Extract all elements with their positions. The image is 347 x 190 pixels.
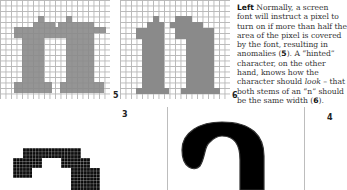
- caption-line: anomalies (: [237, 49, 281, 58]
- caption-line: ).: [319, 96, 324, 105]
- caption-emphasis: look: [305, 77, 321, 86]
- caption-line: Normally, a screen: [254, 3, 329, 12]
- caption-line: turn on if more than half the: [237, 22, 347, 31]
- caption-line: by the font, resulting in: [237, 40, 347, 49]
- caption-line: be the same width (: [237, 96, 313, 105]
- unhinted-n-glyph: [0, 0, 110, 99]
- caption-line: – that: [321, 77, 345, 86]
- caption-line: both stems of an “n” should: [237, 87, 347, 96]
- divider-right: [304, 107, 305, 190]
- hinted-n-glyph: [120, 0, 230, 99]
- caption-line: character should: [237, 77, 305, 86]
- divider-left: [167, 107, 168, 190]
- figure-number-3: 3: [122, 110, 128, 119]
- pixel-grid-hinted: [120, 0, 230, 99]
- pixel-grid-unhinted: [0, 0, 110, 99]
- caption-lead: Left: [237, 3, 254, 12]
- figure-number-5: 5: [113, 91, 119, 100]
- outline-n-glyph: [170, 110, 300, 190]
- figure-number-4: 4: [327, 113, 333, 122]
- figure-caption: Left Normally, a screen font will instru…: [237, 3, 347, 105]
- caption-line: character, on the other: [237, 59, 347, 68]
- caption-line: hand, knows how the: [237, 68, 347, 77]
- caption-line: ). A “hinted”: [287, 49, 335, 58]
- bitmap-n-glyph: [0, 145, 110, 190]
- caption-line: area of the pixel is covered: [237, 31, 347, 40]
- caption-line: font will instruct a pixel to: [237, 12, 347, 21]
